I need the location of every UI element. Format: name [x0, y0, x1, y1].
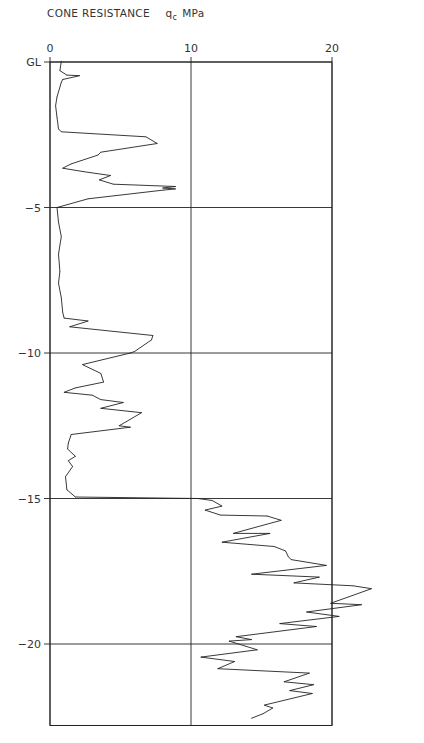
- data-point: [103, 382, 104, 383]
- data-point: [130, 353, 131, 354]
- data-point: [153, 335, 154, 336]
- data-point: [83, 171, 84, 172]
- data-point: [100, 373, 101, 374]
- y-tick-label: −15: [18, 493, 41, 506]
- data-point: [330, 603, 331, 604]
- data-point: [100, 399, 101, 400]
- data-point: [281, 520, 282, 521]
- data-point: [57, 207, 58, 208]
- data-point: [175, 186, 176, 187]
- data-point: [60, 271, 61, 272]
- data-point: [61, 131, 62, 132]
- data-point: [205, 510, 206, 511]
- data-point: [339, 616, 340, 617]
- y-tick-label: −20: [18, 638, 41, 651]
- data-point: [274, 546, 275, 547]
- data-point: [72, 466, 73, 467]
- data-point: [371, 588, 372, 589]
- data-point: [61, 297, 62, 298]
- data-point: [67, 449, 68, 450]
- x-tick-labels: 01020: [47, 42, 340, 55]
- data-point: [71, 434, 72, 435]
- data-point: [284, 681, 285, 682]
- data-point: [62, 312, 63, 313]
- qc-profile-line: [56, 61, 372, 718]
- data-point: [361, 604, 362, 605]
- data-point: [79, 75, 80, 76]
- data-point: [162, 188, 163, 189]
- cone-resistance-chart: CONE RESISTANCE qcMPa 01020 GL−5−10−15−2…: [0, 0, 424, 743]
- data-point: [69, 326, 70, 327]
- data-point: [60, 70, 61, 71]
- data-point: [151, 340, 152, 341]
- y-tick-label: −10: [18, 347, 41, 360]
- data-point: [61, 82, 62, 83]
- data-point: [68, 460, 69, 461]
- data-point: [222, 542, 223, 543]
- data-point: [309, 673, 310, 674]
- data-point: [98, 155, 99, 156]
- data-point: [164, 190, 165, 191]
- data-point: [251, 718, 252, 719]
- data-point: [272, 708, 273, 709]
- data-point: [312, 693, 313, 694]
- data-point: [288, 556, 289, 557]
- grid-layer: [44, 57, 332, 725]
- data-point: [279, 623, 280, 624]
- data-point: [289, 690, 290, 691]
- data-point: [141, 412, 142, 413]
- data-point: [294, 583, 295, 584]
- data-point: [64, 392, 65, 393]
- data-point: [285, 551, 286, 552]
- y-tick-label: −5: [25, 202, 41, 215]
- data-point: [306, 612, 307, 613]
- data-point: [58, 283, 59, 284]
- data-point: [57, 117, 58, 118]
- data-point: [62, 79, 63, 80]
- data-point: [326, 565, 327, 566]
- data-point: [75, 388, 76, 389]
- data-point: [113, 184, 114, 185]
- data-point: [264, 705, 265, 706]
- data-point: [175, 189, 176, 190]
- data-point: [267, 516, 268, 517]
- data-point: [100, 408, 101, 409]
- chart-title: CONE RESISTANCE qcMPa: [47, 7, 204, 22]
- data-point: [212, 500, 213, 501]
- chart-title-unit: MPa: [182, 7, 204, 19]
- x-tick-label: 10: [184, 42, 198, 55]
- data-point: [75, 456, 76, 457]
- data-point: [217, 668, 218, 669]
- data-point: [236, 636, 237, 637]
- data-point: [110, 175, 111, 176]
- data-point: [57, 97, 58, 98]
- x-tick-label: 0: [47, 42, 54, 55]
- data-point: [319, 577, 320, 578]
- data-point: [88, 198, 89, 199]
- data-point: [220, 515, 221, 516]
- data-point: [233, 533, 234, 534]
- data-point: [67, 75, 68, 76]
- data-point: [100, 152, 101, 153]
- x-tick-label: 20: [325, 42, 339, 55]
- data-point: [134, 351, 135, 352]
- y-tick-label: GL: [26, 56, 42, 69]
- data-point: [263, 713, 264, 714]
- data-point: [257, 649, 258, 650]
- data-point: [201, 657, 202, 658]
- data-point: [65, 476, 66, 477]
- data-point: [61, 61, 62, 62]
- data-point: [58, 254, 59, 255]
- data-point: [82, 364, 83, 365]
- data-point: [68, 443, 69, 444]
- data-point: [119, 425, 120, 426]
- data-point: [67, 489, 68, 490]
- y-tick-labels: GL−5−10−15−20: [18, 56, 42, 651]
- data-point: [353, 585, 354, 586]
- data-point: [222, 506, 223, 507]
- data-point: [130, 427, 131, 428]
- data-point: [55, 105, 56, 106]
- data-point: [88, 321, 89, 322]
- data-point: [229, 641, 230, 642]
- data-point: [64, 318, 65, 319]
